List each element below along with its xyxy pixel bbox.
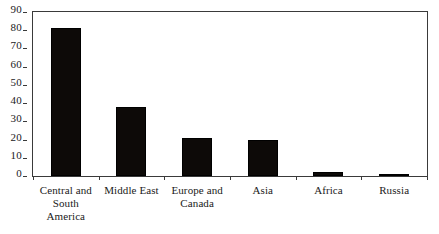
- y-axis-tick-mark: [23, 30, 27, 31]
- y-axis-tick-label: 20: [11, 132, 22, 143]
- bar-slot: [296, 12, 362, 176]
- x-axis-tick-mark: [33, 176, 34, 180]
- y-axis-tick-label: 50: [11, 77, 22, 88]
- y-axis-tick-label: 70: [11, 40, 22, 51]
- y-axis-tick-mark: [23, 176, 27, 177]
- y-axis-tick-label: 40: [11, 95, 22, 106]
- y-axis-tick-mark: [23, 140, 27, 141]
- x-axis-tick-mark: [164, 176, 165, 180]
- x-axis-tick-mark: [230, 176, 231, 180]
- y-axis-tick-label: 10: [11, 150, 22, 161]
- y-axis-tick-mark: [23, 85, 27, 86]
- y-axis-tick-label: 90: [11, 4, 22, 15]
- bar: [116, 107, 146, 176]
- y-axis-tick-label: 80: [11, 22, 22, 33]
- x-axis-ticks: [33, 176, 427, 181]
- bar: [248, 140, 278, 176]
- y-axis-tick-mark: [23, 67, 27, 68]
- bar-slot: [33, 12, 99, 176]
- y-axis-tick-mark: [23, 103, 27, 104]
- x-axis-tick-mark: [296, 176, 297, 180]
- bar-slot: [99, 12, 165, 176]
- y-axis-tick-mark: [23, 12, 27, 13]
- x-axis-labels: Central and South AmericaMiddle EastEuro…: [33, 184, 427, 232]
- bar-slot: [361, 12, 427, 176]
- bars-layer: [33, 12, 427, 176]
- x-axis-tick-mark: [427, 176, 428, 180]
- bar: [182, 138, 212, 176]
- bar-slot: [164, 12, 230, 176]
- x-axis-category-label: Central and South America: [33, 184, 99, 223]
- x-axis-tick-mark: [361, 176, 362, 180]
- x-axis-tick-mark: [99, 176, 100, 180]
- y-axis-tick-mark: [23, 48, 27, 49]
- y-axis: 0102030405060708090: [0, 11, 27, 177]
- bar-slot: [230, 12, 296, 176]
- x-axis-category-label: Asia: [230, 184, 296, 197]
- y-axis-tick-label: 60: [11, 59, 22, 70]
- bar: [51, 28, 81, 176]
- x-axis-category-label: Europe and Canada: [164, 184, 230, 210]
- x-axis-category-label: Africa: [296, 184, 362, 197]
- bar-chart: 0102030405060708090 Central and South Am…: [0, 0, 439, 234]
- y-axis-tick-mark: [23, 121, 27, 122]
- x-axis-category-label: Russia: [361, 184, 427, 197]
- x-axis-category-label: Middle East: [99, 184, 165, 197]
- y-axis-tick-label: 30: [11, 113, 22, 124]
- y-axis-tick-mark: [23, 158, 27, 159]
- y-axis-tick-label: 0: [16, 168, 22, 179]
